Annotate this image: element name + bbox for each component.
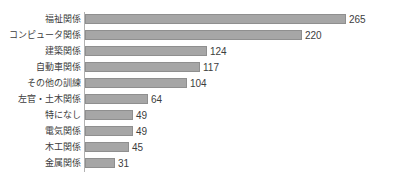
- bar-row: 建築関係 124: [84, 44, 413, 60]
- bar-value-label: 117: [200, 60, 219, 76]
- bar-value-label: 265: [346, 12, 366, 28]
- bar-rect: [85, 30, 302, 40]
- bar-value-label: 220: [302, 28, 322, 44]
- bar-rect: [85, 78, 187, 88]
- bar-chart: 福祉関係 265 コンピュータ関係 220 建築関係 124 自動車関係 117…: [0, 0, 415, 183]
- bar-category-label: 特になし: [45, 108, 81, 124]
- bar-row: 金属関係 31: [84, 156, 413, 172]
- bar-rect: [85, 46, 207, 56]
- bar-row: 自動車関係 117: [84, 60, 413, 76]
- bar-category-label: 自動車関係: [36, 60, 81, 76]
- bar-value-label: 49: [133, 108, 147, 124]
- bar-value-label: 31: [115, 156, 129, 172]
- bar-category-label: コンピュータ関係: [9, 28, 81, 44]
- bar-row: コンピュータ関係 220: [84, 28, 413, 44]
- bar-value-label: 124: [207, 44, 227, 60]
- bar-rect: [85, 14, 346, 24]
- bar-category-label: 木工関係: [45, 140, 81, 156]
- bar-category-label: 左官・土木関係: [18, 92, 81, 108]
- bar-rect: [85, 126, 133, 136]
- bar-rect: [85, 62, 200, 72]
- bar-rect: [85, 94, 148, 104]
- bar-value-label: 104: [187, 76, 207, 92]
- bar-rect: [85, 158, 115, 168]
- bar-category-label: 金属関係: [45, 156, 81, 172]
- plot-area: 福祉関係 265 コンピュータ関係 220 建築関係 124 自動車関係 117…: [84, 12, 413, 175]
- bar-row: 福祉関係 265: [84, 12, 413, 28]
- bar-category-label: その他の訓練: [27, 76, 81, 92]
- bar-category-label: 建築関係: [45, 44, 81, 60]
- bar-row: 特になし 49: [84, 108, 413, 124]
- bar-value-label: 45: [129, 140, 143, 156]
- bar-value-label: 64: [148, 92, 162, 108]
- bar-value-label: 49: [133, 124, 147, 140]
- bar-row: その他の訓練 104: [84, 76, 413, 92]
- bar-row: 左官・土木関係 64: [84, 92, 413, 108]
- bar-category-label: 福祉関係: [45, 12, 81, 28]
- bar-rect: [85, 142, 129, 152]
- bar-row: 木工関係 45: [84, 140, 413, 156]
- bar-rect: [85, 110, 133, 120]
- bar-category-label: 電気関係: [45, 124, 81, 140]
- bar-row: 電気関係 49: [84, 124, 413, 140]
